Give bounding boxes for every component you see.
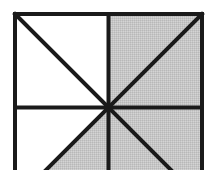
diagram-canvas xyxy=(0,0,210,170)
shaded-square-figure xyxy=(0,0,210,170)
